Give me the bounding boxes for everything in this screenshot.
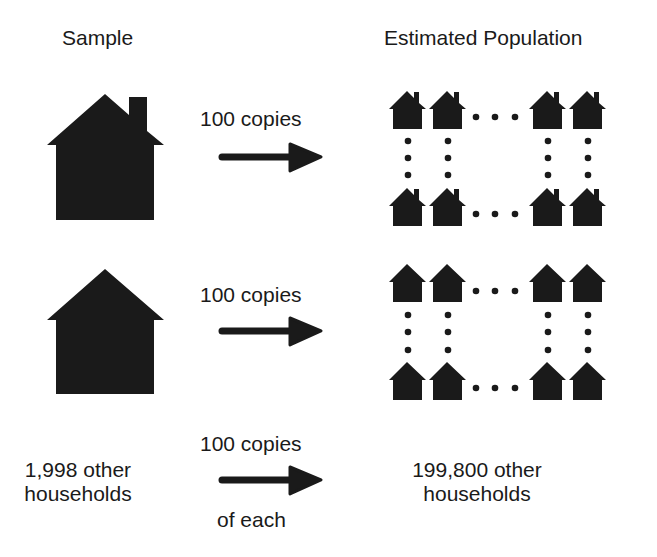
population-grid-row2 [389,264,606,400]
bottom-arrow-icon [222,467,321,494]
small-house-with-chimney-icon [429,188,466,226]
small-house-with-chimney-icon [569,188,606,226]
population-grid-row1 [389,91,606,226]
row1-arrow-icon [222,144,321,171]
small-house-icon [429,264,466,302]
row2-arrow-icon [222,318,321,345]
ellipsis-dots-icon [405,114,592,218]
small-house-with-chimney-icon [429,91,466,129]
small-house-icon [569,264,606,302]
small-house-with-chimney-icon [569,91,606,129]
diagram-graphics [0,0,657,557]
ellipsis-dots-icon [405,288,592,392]
small-house-icon [389,264,426,302]
small-house-with-chimney-icon [529,91,566,129]
house-icon [47,269,164,394]
small-house-with-chimney-icon [389,91,426,129]
small-house-icon [569,362,606,400]
small-house-icon [389,362,426,400]
small-house-with-chimney-icon [389,188,426,226]
small-house-with-chimney-icon [529,188,566,226]
small-house-icon [429,362,466,400]
small-house-icon [529,264,566,302]
house-with-chimney-icon [47,94,164,220]
small-house-icon [529,362,566,400]
